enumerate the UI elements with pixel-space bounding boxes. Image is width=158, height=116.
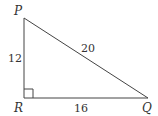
vertex-label-r: R bbox=[13, 101, 23, 115]
side-label-pr: 12 bbox=[8, 52, 22, 65]
right-angle-marker bbox=[24, 89, 33, 98]
side-label-pq: 20 bbox=[81, 42, 95, 55]
triangle-pqr bbox=[24, 18, 148, 98]
triangle-diagram: P R Q 12 16 20 bbox=[0, 0, 158, 116]
vertex-label-p: P bbox=[13, 4, 23, 18]
side-label-rq: 16 bbox=[74, 102, 88, 115]
vertex-label-q: Q bbox=[142, 101, 152, 115]
